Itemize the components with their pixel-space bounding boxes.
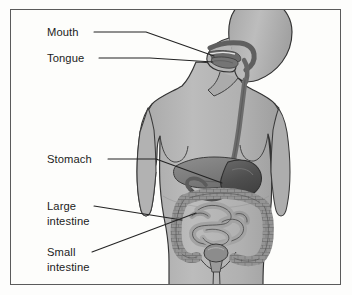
- label-mouth: Mouth: [47, 26, 79, 38]
- label-small-intestine-line1: Small: [47, 246, 75, 258]
- label-tongue: Tongue: [47, 52, 84, 64]
- anatomy-illustration: Mouth Tongue Stomach Large intestine Sma…: [0, 0, 352, 295]
- label-large-intestine-line2: intestine: [47, 215, 90, 227]
- leader-line-tongue: [99, 58, 213, 62]
- label-large-intestine-line1: Large: [47, 200, 76, 212]
- digestive-system-figure: Mouth Tongue Stomach Large intestine Sma…: [0, 0, 352, 295]
- leader-line-mouth: [94, 32, 214, 56]
- label-small-intestine-line2: intestine: [47, 261, 90, 273]
- label-stomach: Stomach: [47, 153, 92, 165]
- label-text-group: Mouth Tongue Stomach Large intestine Sma…: [47, 26, 92, 273]
